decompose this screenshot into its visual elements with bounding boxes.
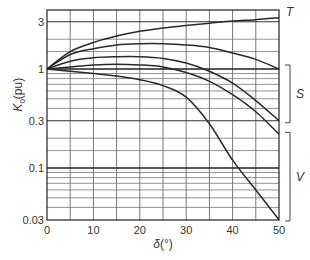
bracket-v bbox=[285, 132, 290, 221]
x-tick-label: 20 bbox=[134, 224, 146, 236]
y-tick-label: 0.03 bbox=[23, 214, 44, 226]
y-tick-label: 1 bbox=[38, 63, 44, 75]
x-tick-label: 0 bbox=[44, 224, 50, 236]
x-axis-title: δ(°) bbox=[153, 237, 172, 251]
y-tick-labels: 0.030.10.313 bbox=[23, 16, 44, 226]
bracket-label-v: V bbox=[296, 170, 305, 184]
x-tick-label: 50 bbox=[273, 224, 285, 236]
bracket-s bbox=[285, 65, 290, 123]
y-axis-unit: (pu) bbox=[11, 78, 25, 99]
y-tick-label: 0.3 bbox=[29, 115, 44, 127]
curve-label-t: T bbox=[286, 5, 295, 19]
bracket-label-s: S bbox=[296, 87, 304, 101]
y-tick-label: 0.1 bbox=[29, 162, 44, 174]
x-tick-label: 40 bbox=[226, 224, 238, 236]
x-axis-unit: (°) bbox=[160, 237, 173, 251]
x-tick-labels: 01020304050 bbox=[44, 224, 285, 236]
y-tick-label: 3 bbox=[38, 16, 44, 28]
x-tick-label: 10 bbox=[87, 224, 99, 236]
grid-lines bbox=[47, 10, 279, 220]
chart: 01020304050 0.030.10.313 δ(°) K0(pu) T S… bbox=[0, 0, 310, 260]
y-axis-title: K0(pu) bbox=[11, 78, 27, 112]
x-tick-label: 30 bbox=[180, 224, 192, 236]
